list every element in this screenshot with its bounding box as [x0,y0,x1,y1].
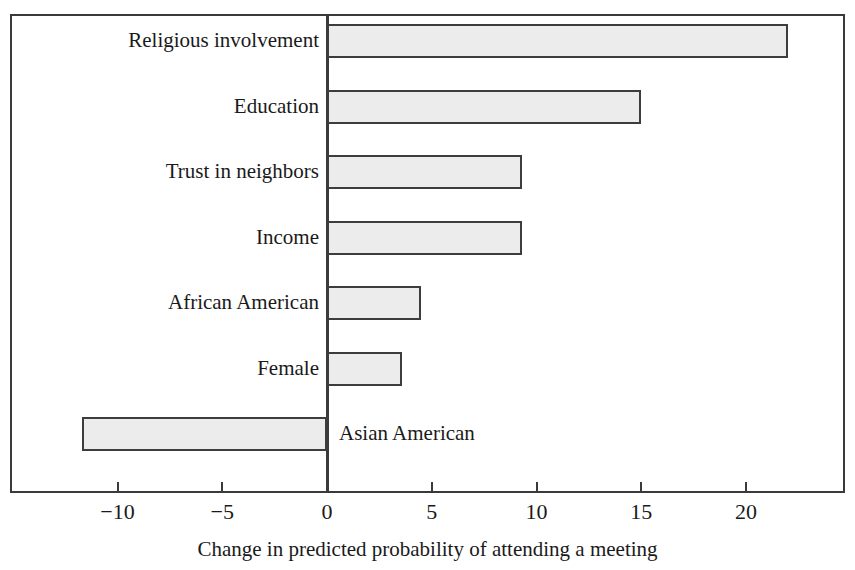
x-axis-line [12,491,843,493]
x-tick-label-5: 5 [392,501,472,523]
chart-page: Religious involvementEducationTrust in n… [0,0,855,570]
category-label-trust-in-neighbors: Trust in neighbors [166,161,319,182]
bar-education [327,90,641,124]
x-tick-mark-20 [745,482,747,491]
category-label-african-american: African American [168,292,319,313]
bar-african-american [327,286,421,320]
plot-area: Religious involvementEducationTrust in n… [0,0,855,570]
x-tick-label-10: 10 [497,501,577,523]
category-label-asian-american: Asian American [339,423,475,444]
x-tick-mark-10 [536,482,538,491]
chart-caption: Change in predicted probability of atten… [0,538,855,561]
x-tick-mark-15 [640,482,642,491]
bar-asian-american [82,417,327,451]
x-tick-mark-5 [431,482,433,491]
x-tick-mark--5 [221,482,223,491]
x-tick-label-0: 0 [287,501,367,523]
bar-female [327,352,402,386]
category-label-education: Education [234,96,319,117]
bar-income [327,221,522,255]
x-tick-mark--10 [117,482,119,491]
category-label-religious-involvement: Religious involvement [128,30,319,51]
bar-religious-involvement [327,24,788,58]
x-tick-label-15: 15 [601,501,681,523]
x-tick-label-20: 20 [706,501,786,523]
bar-trust-in-neighbors [327,155,522,189]
x-tick-label--10: −10 [78,501,158,523]
category-label-income: Income [256,227,319,248]
x-tick-label--5: −5 [182,501,262,523]
category-label-female: Female [257,358,319,379]
